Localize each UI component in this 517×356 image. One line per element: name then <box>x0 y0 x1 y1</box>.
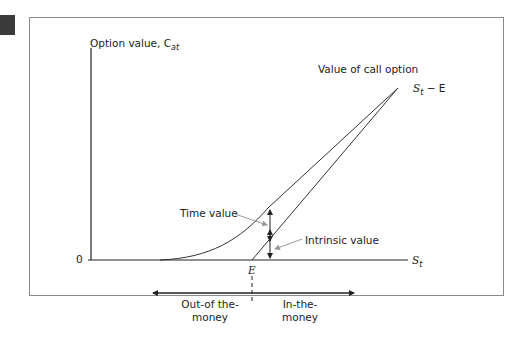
y-axis-label: Option value, Cat <box>90 37 179 53</box>
option-value-diagram <box>0 0 517 356</box>
intrinsic-value-label: Intrinsic value <box>305 234 379 247</box>
x-axis-label: St <box>412 254 422 270</box>
in-the-money-label: In-the-money <box>270 298 330 323</box>
line-label: St − E <box>413 82 445 98</box>
time-value-label: Time value <box>180 207 238 220</box>
origin-label: 0 <box>76 253 83 266</box>
out-of-the-money-label: Out-of the-money <box>170 298 250 323</box>
strike-label: E <box>248 264 256 277</box>
curve-title: Value of call option <box>318 63 418 76</box>
